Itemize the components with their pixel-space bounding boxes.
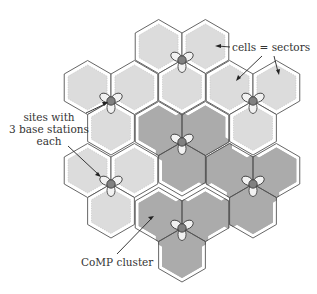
cluster-label: CoMP cluster xyxy=(81,256,154,268)
sites-label-line1: sites with xyxy=(23,111,74,123)
cells-label: cells = sectors xyxy=(232,41,310,53)
base-station-icon xyxy=(178,56,186,64)
sites-label-line2: 3 base stations xyxy=(9,123,89,135)
sites-label-line3: each xyxy=(36,135,61,147)
base-station-icon xyxy=(107,97,115,105)
base-station-icon xyxy=(249,97,257,105)
base-station-icon xyxy=(249,180,257,188)
base-station-icon xyxy=(178,138,186,146)
base-station-icon xyxy=(107,180,115,188)
base-station-icon xyxy=(178,224,186,232)
cellular-diagram: cells = sectors sites with 3 base statio… xyxy=(0,0,317,294)
